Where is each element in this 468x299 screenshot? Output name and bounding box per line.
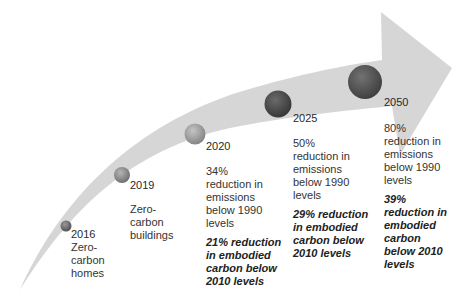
milestone-dot-2019 — [114, 167, 130, 183]
year-2019: 2019 — [130, 179, 154, 192]
desc-line: emissions — [293, 163, 350, 176]
desc-line: homes — [71, 267, 105, 280]
milestone-dot-2020 — [185, 124, 206, 145]
desc-line: emissions — [206, 191, 263, 204]
embodied-line: 21% reduction — [206, 236, 281, 249]
embodied-line: carbon below — [206, 262, 281, 275]
desc-line: levels — [293, 189, 350, 202]
embodied-line: 2010 levels — [206, 275, 281, 288]
desc-line: Zero- — [130, 203, 173, 216]
embodied-line: below 2010 — [384, 245, 447, 258]
desc-line: 80% — [384, 122, 441, 135]
embodied-line: carbon — [384, 232, 447, 245]
year-2016: 2016 — [71, 228, 95, 241]
year-2020: 2020 — [206, 140, 230, 153]
year-2025: 2025 — [293, 112, 317, 125]
desc-line: carbon — [130, 216, 173, 229]
embodied-line: 39% — [384, 193, 447, 206]
desc-line: reduction in — [293, 150, 350, 163]
milestone-2025-description: 50% reduction in emissions below 1990 le… — [293, 137, 350, 202]
desc-line: carbon — [71, 254, 105, 267]
embodied-line: in embodied — [293, 221, 368, 234]
year-2050: 2050 — [384, 96, 408, 109]
desc-line: reduction in — [206, 178, 263, 191]
milestone-2016-description: Zero- carbon homes — [71, 241, 105, 280]
desc-line: 50% — [293, 137, 350, 150]
milestone-2019-description: Zero- carbon buildings — [130, 203, 173, 242]
milestone-2050-description: 80% reduction in emissions below 1990 le… — [384, 122, 441, 187]
milestone-2020-embodied: 21% reduction in embodied carbon below 2… — [206, 236, 281, 288]
milestone-dot-2025 — [265, 91, 292, 118]
desc-line: below 1990 — [206, 204, 263, 217]
milestone-2020-description: 34% reduction in emissions below 1990 le… — [206, 165, 263, 230]
embodied-line: 2010 levels — [293, 247, 368, 260]
desc-line: reduction in — [384, 135, 441, 148]
desc-line: below 1990 — [293, 176, 350, 189]
desc-line: Zero- — [71, 241, 105, 254]
desc-line: levels — [384, 174, 441, 187]
embodied-line: embodied — [384, 219, 447, 232]
embodied-line: reduction in — [384, 206, 447, 219]
desc-line: below 1990 — [384, 161, 441, 174]
embodied-line: carbon below — [293, 234, 368, 247]
milestone-dot-2050 — [348, 65, 382, 99]
desc-line: buildings — [130, 229, 173, 242]
embodied-line: 29% reduction — [293, 208, 368, 221]
desc-line: 34% — [206, 165, 263, 178]
milestone-2025-embodied: 29% reduction in embodied carbon below 2… — [293, 208, 368, 260]
embodied-line: levels — [384, 258, 447, 271]
desc-line: levels — [206, 217, 263, 230]
embodied-line: in embodied — [206, 249, 281, 262]
desc-line: emissions — [384, 148, 441, 161]
milestone-2050-embodied: 39% reduction in embodied carbon below 2… — [384, 193, 447, 271]
milestone-dot-2016 — [61, 221, 72, 232]
